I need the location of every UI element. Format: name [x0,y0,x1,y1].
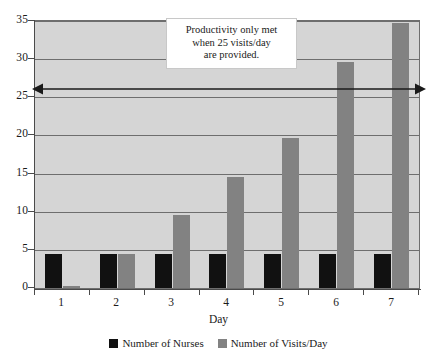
y-axis-tick [28,173,34,174]
x-axis-tick [418,290,419,295]
y-axis-tick [28,20,34,21]
x-axis-tick [89,290,90,295]
x-axis-tick-label: 5 [261,296,301,309]
productivity-note: Productivity only met when 25 visits/day… [166,18,297,69]
gridline [35,174,419,175]
bar-visits-day-1 [63,286,80,288]
y-axis-tick-label: 35 [4,14,28,26]
x-axis-tick-label: 4 [206,296,246,309]
bar-visits-day-3 [173,215,190,288]
x-axis-title: Day [0,313,437,325]
legend-label-nurses: Number of Nurses [122,338,203,349]
annotation-line-3: are provided. [171,49,292,62]
bar-visits-day-4 [227,177,244,288]
bar-nurses-day-5 [264,254,281,288]
y-axis-tick-label: 30 [4,52,28,64]
y-axis-tick-label: 25 [4,90,28,102]
bar-nurses-day-1 [45,254,62,288]
legend-item-visits: Number of Visits/Day [218,338,328,349]
annotation-line-1: Productivity only met [171,24,292,37]
bar-visits-day-7 [392,23,409,288]
y-axis-tick [28,96,34,97]
y-axis-tick-label: 0 [4,281,28,293]
x-axis-tick-label: 6 [316,296,356,309]
x-axis-tick-label: 1 [41,296,81,309]
legend-swatch-nurses-icon [109,339,118,348]
bar-visits-day-2 [118,254,135,288]
legend-item-nurses: Number of Nurses [109,338,203,349]
gridline [35,97,419,98]
bar-nurses-day-6 [319,254,336,288]
y-axis-tick [28,211,34,212]
y-axis-labels: 35302520151050 [0,0,28,300]
bar-nurses-day-2 [100,254,117,288]
x-axis-tick [308,290,309,295]
y-axis-tick [28,134,34,135]
gridline [35,135,419,136]
bar-chart: 35302520151050 1234567 Day Productivity … [0,0,437,363]
y-axis-tick-label: 10 [4,205,28,217]
x-axis-tick [363,290,364,295]
bar-nurses-day-7 [374,254,391,288]
y-axis-line [34,20,35,290]
legend: Number of Nurses Number of Visits/Day [0,338,437,349]
y-axis-tick-label: 5 [4,243,28,255]
x-axis-tick-label: 7 [371,296,411,309]
y-axis-tick [28,58,34,59]
bar-nurses-day-4 [209,254,226,288]
x-axis-tick [144,290,145,295]
x-axis-tick-label: 2 [96,296,136,309]
y-axis-tick [28,249,34,250]
y-axis-tick-label: 15 [4,167,28,179]
target-line-arrow [30,82,428,96]
annotation-line-2: when 25 visits/day [171,37,292,50]
legend-swatch-visits-icon [218,339,227,348]
x-axis-tick [34,290,35,295]
legend-label-visits: Number of Visits/Day [231,338,328,349]
bar-visits-day-5 [282,138,299,288]
x-axis-tick [253,290,254,295]
x-axis-tick [199,290,200,295]
bar-nurses-day-3 [155,254,172,288]
x-axis-tick-label: 3 [151,296,191,309]
y-axis-tick [28,287,34,288]
y-axis-tick-label: 20 [4,128,28,140]
